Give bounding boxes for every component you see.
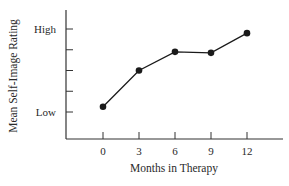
- series-markers: [100, 30, 251, 110]
- x-tick-label: 6: [172, 145, 178, 157]
- x-tick-label: 0: [100, 145, 106, 157]
- data-point-marker: [136, 67, 143, 74]
- x-tick-label: 3: [136, 145, 142, 157]
- x-tick-label: 9: [208, 145, 214, 157]
- line-chart: LowHigh 036912 Mean Self-Image Rating Mo…: [0, 0, 289, 186]
- axes: [66, 10, 283, 139]
- data-point-marker: [172, 49, 179, 56]
- data-point-marker: [244, 30, 251, 37]
- y-tick-label: High: [34, 23, 57, 35]
- x-tick-label: 12: [242, 145, 253, 157]
- y-tick-label: Low: [36, 106, 56, 118]
- x-axis-title: Months in Therapy: [130, 162, 218, 175]
- data-point-marker: [100, 104, 107, 111]
- x-ticks: 036912: [100, 132, 252, 157]
- data-point-marker: [208, 50, 215, 57]
- y-ticks: LowHigh: [34, 23, 73, 118]
- y-axis-title: Mean Self-Image Rating: [7, 19, 20, 133]
- series-line: [103, 33, 247, 107]
